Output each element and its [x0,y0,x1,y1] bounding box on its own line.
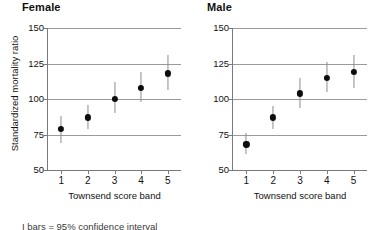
x-tick-label-female-2: 2 [85,176,91,186]
x-tickmark-female-4 [141,170,142,174]
y-tick-label-female-50: 50 [33,165,44,175]
y-tickmark-female-75 [44,135,48,136]
y-axis-label-female: Standardized mortality ratio [9,19,20,169]
y-tick-label-female-100: 100 [28,94,44,104]
y-tickmark-male-100 [229,99,233,100]
gridline-male-150 [233,28,367,29]
x-tickmark-male-4 [327,170,328,174]
figure-two-panel-smr: Female Standardized mortality ratio 5075… [0,0,377,230]
data-point-female-band-2 [85,114,91,120]
x-tickmark-female-3 [115,170,116,174]
x-tick-label-female-1: 1 [59,176,65,186]
x-tick-label-male-1: 1 [244,176,250,186]
x-tickmark-female-1 [61,170,62,174]
y-tick-label-male-150: 150 [213,23,229,33]
y-tick-label-male-75: 75 [218,130,229,140]
y-tick-label-female-125: 125 [28,59,44,69]
data-point-male-band-3 [297,90,303,96]
y-tick-label-male-125: 125 [213,59,229,69]
panel-title-female: Female [22,1,61,13]
x-tick-label-female-5: 5 [165,176,171,186]
x-tick-label-male-2: 2 [270,176,276,186]
y-tick-label-male-100: 100 [213,94,229,104]
y-tick-label-male-50: 50 [218,165,229,175]
data-point-male-band-2 [270,114,276,120]
x-tick-label-male-5: 5 [351,176,357,186]
y-tickmark-male-150 [229,28,233,29]
data-point-female-band-1 [58,126,64,132]
x-axis-label-female: Townsend score band [68,190,160,201]
data-point-male-band-1 [243,141,249,147]
x-tickmark-male-5 [354,170,355,174]
gridline-male-75 [233,135,367,136]
gridline-female-150 [48,28,181,29]
gridline-female-75 [48,135,181,136]
x-tick-label-male-3: 3 [297,176,303,186]
y-tickmark-male-50 [229,170,233,171]
data-point-female-band-5 [165,70,171,76]
y-tickmark-female-150 [44,28,48,29]
gridline-female-125 [48,64,181,65]
panel-female: Female Standardized mortality ratio 5075… [0,0,190,205]
panel-title-male: Male [207,1,232,13]
x-tick-label-female-4: 4 [138,176,144,186]
y-tickmark-female-100 [44,99,48,100]
y-tickmark-male-125 [229,64,233,65]
plot-area-male: 507510012515012345Townsend score band [232,28,367,171]
data-point-female-band-4 [138,85,144,91]
y-tickmark-female-50 [44,170,48,171]
x-axis-label-male: Townsend score band [254,190,346,201]
x-tickmark-female-2 [88,170,89,174]
data-point-male-band-4 [324,75,330,81]
x-tickmark-male-1 [246,170,247,174]
x-tick-label-female-3: 3 [112,176,118,186]
data-point-male-band-5 [351,69,357,75]
panel-male: Male 507510012515012345Townsend score ba… [188,0,377,205]
y-tickmark-male-75 [229,135,233,136]
plot-area-female: 507510012515012345Townsend score band [47,28,181,171]
figure-caption: I bars = 95% confidence interval [22,221,157,230]
x-tick-label-male-4: 4 [324,176,330,186]
y-tickmark-female-125 [44,64,48,65]
x-tickmark-male-2 [273,170,274,174]
y-tick-label-female-75: 75 [33,130,44,140]
x-tickmark-male-3 [300,170,301,174]
gridline-male-125 [233,64,367,65]
y-tick-label-female-150: 150 [28,23,44,33]
data-point-female-band-3 [111,96,117,102]
x-tickmark-female-5 [168,170,169,174]
